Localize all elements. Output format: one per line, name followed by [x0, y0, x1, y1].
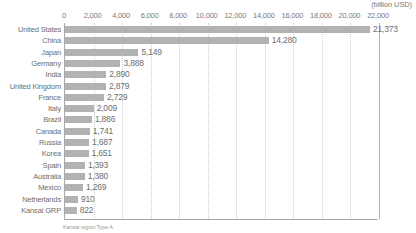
category-label: Germany: [31, 58, 61, 69]
bar-value-label: 5,149: [141, 47, 161, 58]
bar: [65, 26, 370, 33]
bar-row: Korea1,651: [0, 148, 416, 159]
bar: [65, 105, 94, 112]
bar-value-label: 2,009: [97, 103, 117, 114]
bar: [65, 139, 89, 146]
category-label: Italy: [48, 103, 61, 114]
bar-row: Italy2,009: [0, 103, 416, 114]
bar-value-label: 2,729: [107, 92, 127, 103]
bar: [65, 49, 138, 56]
category-label: Japan: [41, 47, 61, 58]
bar-value-label: 910: [81, 194, 95, 205]
category-label: Russia: [39, 137, 61, 148]
category-label: Netherlands: [22, 194, 61, 205]
bar-value-label: 1,886: [95, 114, 115, 125]
bar-value-label: 822: [80, 205, 94, 216]
bar-row: Spain1,393: [0, 160, 416, 171]
bar-row: Australia1,380: [0, 171, 416, 182]
bar-row: United States21,373: [0, 24, 416, 35]
bar: [65, 184, 83, 191]
bar: [65, 128, 90, 135]
bar-row: Japan5,149: [0, 47, 416, 58]
bar-value-label: 1,393: [88, 160, 108, 171]
bar: [65, 60, 120, 67]
bar: [65, 150, 89, 157]
bar-row: Germany3,888: [0, 58, 416, 69]
bar-chart: (billion USD) 02,0004,0006,0008,00010,00…: [0, 0, 416, 233]
bar: [65, 94, 104, 101]
category-label: Canada: [36, 126, 61, 137]
category-label: India: [45, 69, 61, 80]
category-label: Kansai GRP: [21, 205, 61, 216]
category-label: Korea: [42, 148, 61, 159]
bar-row: France2,729: [0, 92, 416, 103]
bar-value-label: 1,741: [93, 126, 113, 137]
category-label: Brazil: [43, 114, 61, 125]
bar-value-label: 21,373: [373, 24, 398, 35]
bar-row: Brazil1,886: [0, 114, 416, 125]
bar: [65, 37, 269, 44]
bar-row: United Kingdom2,879: [0, 81, 416, 92]
bar-row: India2,890: [0, 69, 416, 80]
bar: [65, 196, 78, 203]
bar-value-label: 1,380: [88, 171, 108, 182]
bar-value-label: 2,890: [109, 69, 129, 80]
bar-value-label: 1,687: [92, 137, 112, 148]
bar-row: Russia1,687: [0, 137, 416, 148]
chart-caption: Kansai region Type A: [63, 224, 113, 230]
bar-row: Netherlands910: [0, 194, 416, 205]
bar-row: China14,280: [0, 35, 416, 46]
bar-value-label: 1,651: [92, 148, 112, 159]
bar-row: Kansai GRP822: [0, 205, 416, 216]
bar-value-label: 3,888: [123, 58, 143, 69]
category-label: Australia: [33, 171, 61, 182]
bar-value-label: 2,879: [109, 81, 129, 92]
bar-value-label: 14,280: [272, 35, 297, 46]
bar-value-label: 1,269: [86, 182, 106, 193]
category-label: France: [39, 92, 61, 103]
bar: [65, 173, 85, 180]
bar: [65, 207, 77, 214]
category-label: Spain: [43, 160, 61, 171]
category-label: United Kingdom: [10, 81, 61, 92]
bar-rows: United States21,373China14,280Japan5,149…: [0, 0, 416, 233]
bar-row: Canada1,741: [0, 126, 416, 137]
bar: [65, 71, 106, 78]
category-label: China: [42, 35, 61, 46]
bar: [65, 116, 92, 123]
bar: [65, 83, 106, 90]
bar: [65, 162, 85, 169]
category-label: United States: [18, 24, 61, 35]
category-label: Mexico: [38, 182, 61, 193]
bar-row: Mexico1,269: [0, 182, 416, 193]
